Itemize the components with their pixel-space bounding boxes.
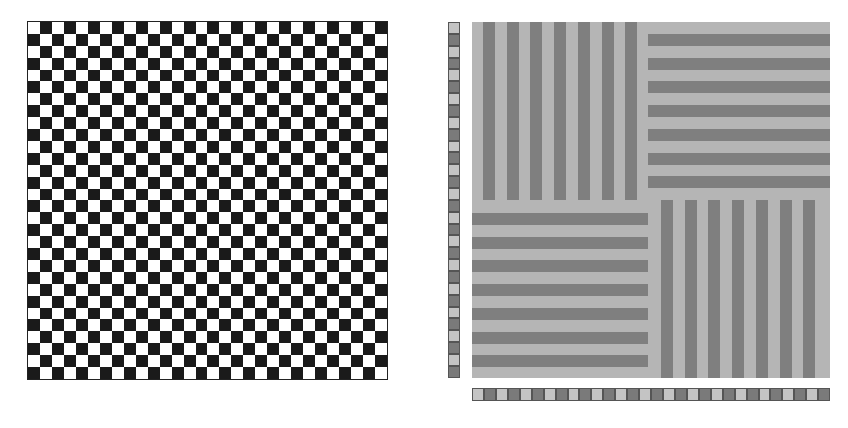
- checker-cell: [88, 117, 100, 129]
- checker-cell: [196, 189, 208, 201]
- checker-cell: [148, 296, 160, 308]
- checker-cell: [219, 355, 231, 367]
- checker-cell: [363, 319, 375, 331]
- checker-cell: [207, 272, 219, 284]
- checker-cell: [291, 367, 303, 379]
- checker-cell: [303, 308, 315, 320]
- checker-cell: [136, 93, 148, 105]
- strip-cell: [723, 388, 735, 401]
- checker-cell: [64, 46, 76, 58]
- checker-cell: [351, 284, 363, 296]
- checker-cell: [28, 153, 40, 165]
- checker-cell: [196, 200, 208, 212]
- checker-cell: [231, 260, 243, 272]
- checker-cell: [148, 224, 160, 236]
- checker-cell: [172, 165, 184, 177]
- checker-cell: [100, 248, 112, 260]
- checker-cell: [100, 236, 112, 248]
- checker-cell: [196, 355, 208, 367]
- checker-cell: [303, 236, 315, 248]
- dark-stripe: [803, 200, 815, 378]
- checker-cell: [315, 284, 327, 296]
- checker-cell: [267, 117, 279, 129]
- checker-cell: [88, 165, 100, 177]
- checker-cell: [100, 22, 112, 34]
- checker-cell: [184, 46, 196, 58]
- checker-cell: [351, 58, 363, 70]
- checker-cell: [279, 141, 291, 153]
- checker-cell: [375, 34, 387, 46]
- checker-cell: [28, 117, 40, 129]
- checker-cell: [243, 212, 255, 224]
- checker-cell: [363, 189, 375, 201]
- checker-cell: [124, 81, 136, 93]
- checker-cell: [172, 34, 184, 46]
- checker-cell: [375, 260, 387, 272]
- checker-cell: [136, 105, 148, 117]
- checker-cell: [196, 34, 208, 46]
- checker-cell: [303, 200, 315, 212]
- checker-cell: [184, 141, 196, 153]
- checker-cell: [351, 260, 363, 272]
- checker-cell: [64, 331, 76, 343]
- strip-cell: [579, 388, 591, 401]
- checker-cell: [267, 177, 279, 189]
- checker-cell: [243, 70, 255, 82]
- checker-cell: [303, 117, 315, 129]
- checker-cell: [351, 355, 363, 367]
- checker-cell: [52, 212, 64, 224]
- checker-cell: [327, 260, 339, 272]
- checker-cell: [363, 236, 375, 248]
- checker-cell: [196, 117, 208, 129]
- checker-cell: [124, 224, 136, 236]
- checker-cell: [184, 81, 196, 93]
- checker-cell: [327, 141, 339, 153]
- checker-cell: [76, 212, 88, 224]
- strip-cell: [639, 388, 651, 401]
- checker-cell: [148, 212, 160, 224]
- checker-cell: [196, 272, 208, 284]
- checker-cell: [112, 284, 124, 296]
- checker-cell: [243, 129, 255, 141]
- checker-cell: [160, 129, 172, 141]
- checker-cell: [351, 81, 363, 93]
- checker-cell: [327, 117, 339, 129]
- strip-cell: [687, 388, 699, 401]
- checker-cell: [351, 93, 363, 105]
- checker-cell: [327, 224, 339, 236]
- checker-cell: [255, 165, 267, 177]
- checker-cell: [40, 319, 52, 331]
- checker-cell: [184, 236, 196, 248]
- dark-stripe: [648, 176, 830, 188]
- strip-cell: [747, 388, 759, 401]
- checker-cell: [88, 212, 100, 224]
- checker-cell: [196, 284, 208, 296]
- checker-cell: [243, 105, 255, 117]
- checker-cell: [315, 70, 327, 82]
- checker-cell: [351, 46, 363, 58]
- checker-cell: [40, 355, 52, 367]
- checker-cell: [339, 212, 351, 224]
- stripe-pattern-panel: [472, 22, 830, 378]
- checker-cell: [303, 81, 315, 93]
- checker-cell: [76, 129, 88, 141]
- checker-cell: [160, 117, 172, 129]
- checker-cell: [219, 129, 231, 141]
- checker-cell: [315, 177, 327, 189]
- checker-cell: [76, 296, 88, 308]
- checker-cell: [40, 153, 52, 165]
- checker-cell: [88, 308, 100, 320]
- checker-cell: [124, 34, 136, 46]
- checker-cell: [196, 319, 208, 331]
- checker-cell: [148, 129, 160, 141]
- checker-cell: [231, 141, 243, 153]
- checker-cell: [291, 34, 303, 46]
- checker-cell: [172, 284, 184, 296]
- dark-stripe: [661, 200, 673, 378]
- checker-cell: [231, 212, 243, 224]
- checker-cell: [196, 105, 208, 117]
- checker-cell: [160, 22, 172, 34]
- checker-cell: [267, 129, 279, 141]
- checker-cell: [184, 58, 196, 70]
- checker-cell: [219, 224, 231, 236]
